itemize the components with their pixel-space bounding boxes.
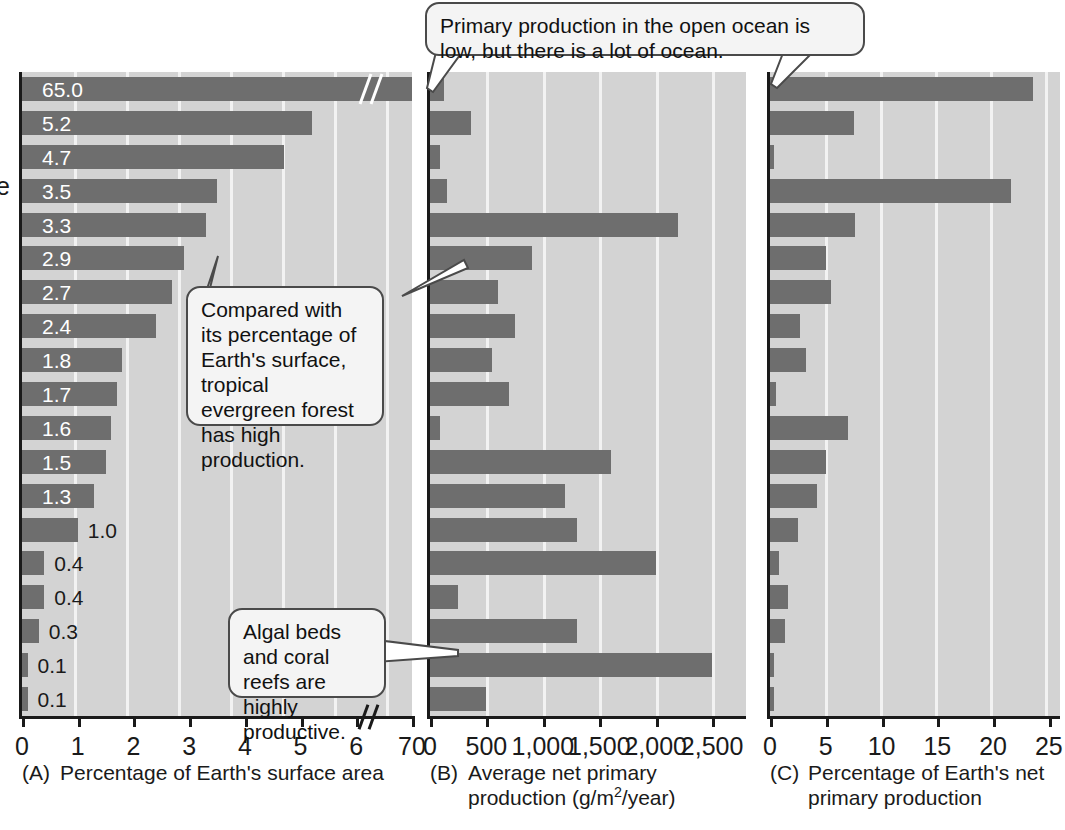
gridline [712, 72, 715, 716]
bar-value-label: 5.2 [42, 113, 71, 134]
bar-value-label: 1.5 [42, 452, 71, 473]
bar [770, 619, 785, 643]
axis-tick [656, 716, 659, 727]
panel-c-caption: (C) Percentage of Earth's net primary pr… [770, 760, 1060, 810]
gridline [386, 72, 389, 716]
bar-value-label: 0.1 [38, 689, 67, 710]
bar [770, 450, 826, 474]
bar-value-label: 3.5 [42, 181, 71, 202]
bar-value-label: 2.9 [42, 248, 71, 269]
axis-tick [993, 716, 996, 727]
panel-b-axis-title-line1: Average net primary [468, 761, 657, 784]
bar [770, 314, 800, 338]
bar-value-label: 1.6 [42, 418, 71, 439]
panel-a-axis-title: Percentage of Earth's surface area [60, 760, 384, 785]
bar-value-label: 2.4 [42, 316, 71, 337]
bar-value-label: 1.0 [88, 520, 117, 541]
gridline [656, 72, 659, 716]
panel-c: 0510152025 [770, 72, 1060, 716]
bar [770, 179, 1011, 203]
axis-tick-label: 25 [1009, 734, 1065, 759]
callout-tropical-forest: Compared with its percentage of Earth's … [186, 286, 384, 426]
axis-tick [770, 716, 773, 727]
bar [770, 653, 774, 677]
bar [430, 484, 565, 508]
bar-value-label: 1.7 [42, 384, 71, 405]
bar [430, 179, 447, 203]
axis-tick [826, 716, 829, 727]
panel-a-caption: (A)Percentage of Earth's surface area [22, 760, 422, 785]
ecosystem-productivity-figure: e 65.05.24.73.53.32.92.72.41.81.71.61.51… [0, 0, 1065, 830]
bar [770, 687, 774, 711]
panel-c-plot-area [770, 72, 1060, 716]
bar [22, 518, 78, 542]
bar-value-label: 0.1 [38, 655, 67, 676]
bar [770, 551, 779, 575]
callout-open-ocean: Primary production in the open ocean is … [425, 2, 865, 56]
axis-tick [882, 716, 885, 727]
panel-c-axis-title-line1: Percentage of Earth's net [808, 761, 1044, 784]
gridline [825, 72, 828, 716]
bar [430, 382, 509, 406]
axis-tick [937, 716, 940, 727]
bar [430, 585, 458, 609]
bar [430, 314, 515, 338]
panel-b-axis-title-superscript: 2 [614, 784, 622, 800]
bar [770, 484, 817, 508]
bar-value-label: 65.0 [42, 79, 83, 100]
bar [430, 518, 577, 542]
axis-tick [189, 716, 192, 727]
bar [770, 280, 831, 304]
bar [22, 653, 28, 677]
gridline [935, 72, 938, 716]
bar-value-label: 4.7 [42, 147, 71, 168]
bar-value-label: 0.3 [49, 621, 78, 642]
axis-tick [430, 716, 433, 727]
panel-c-axis-title: Percentage of Earth's net primary produc… [808, 760, 1053, 810]
callout-algal-beds: Algal beds and coral reefs are highly pr… [228, 608, 386, 698]
gridline [880, 72, 883, 716]
bar [430, 213, 678, 237]
bar [770, 246, 826, 270]
panel-c-x-axis [767, 716, 1060, 719]
bar [770, 416, 848, 440]
axis-tick [543, 716, 546, 727]
panel-c-y-axis [767, 72, 770, 719]
bar [430, 348, 492, 372]
panel-b-axis-title-line2-end: /year) [622, 786, 676, 809]
axis-tick [22, 716, 25, 727]
bar [430, 551, 656, 575]
panel-b-y-axis [427, 72, 430, 719]
bar [770, 518, 798, 542]
bar-value-label: 0.4 [54, 587, 83, 608]
bar [430, 653, 712, 677]
bar [770, 145, 774, 169]
panel-b-x-axis [427, 716, 746, 719]
panel-b-axis-title: Average net primary production (g/m2/yea… [468, 760, 728, 810]
bar [770, 348, 806, 372]
bar [770, 111, 854, 135]
bar [770, 213, 855, 237]
bar [430, 450, 611, 474]
bar [430, 687, 486, 711]
gridline [990, 72, 993, 716]
axis-tick [78, 716, 81, 727]
bar-value-label: 0.4 [54, 553, 83, 574]
bar [770, 585, 788, 609]
panel-b-axis-title-line2: production (g/m [468, 786, 614, 809]
panel-b-label: (B) [430, 760, 468, 785]
bar [430, 416, 440, 440]
panel-a-label: (A) [22, 760, 60, 785]
bar-value-label: 1.8 [42, 350, 71, 371]
bar-value-label: 3.3 [42, 215, 71, 236]
bar [430, 111, 471, 135]
bar [22, 551, 44, 575]
panel-c-axis-title-line2: primary production [808, 786, 982, 809]
axis-tick [412, 716, 415, 727]
panel-b: 05001,0001,5002,0002,500 [430, 72, 746, 716]
bar [22, 348, 122, 372]
bar [430, 145, 440, 169]
axis-tick [1049, 716, 1052, 727]
axis-tick [599, 716, 602, 727]
gridline [599, 72, 602, 716]
